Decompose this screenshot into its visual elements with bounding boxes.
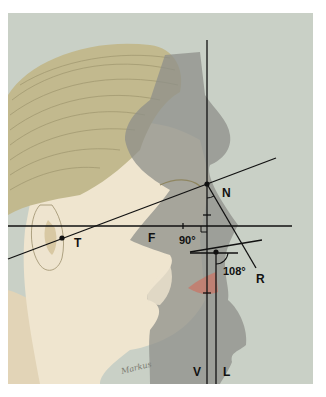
point-subnasale <box>213 249 218 254</box>
label-angle-108: 108° <box>223 265 246 277</box>
label-angle-90: 90° <box>179 234 196 246</box>
facial-analysis-diagram: N T F 90° 108° R V L Markus <box>0 0 326 397</box>
point-T <box>59 235 64 240</box>
label-F: F <box>148 231 155 245</box>
label-L: L <box>223 365 230 379</box>
label-V: V <box>193 365 201 379</box>
point-N <box>204 181 209 186</box>
label-R: R <box>256 272 265 286</box>
label-T: T <box>74 236 82 250</box>
label-N: N <box>222 186 231 200</box>
